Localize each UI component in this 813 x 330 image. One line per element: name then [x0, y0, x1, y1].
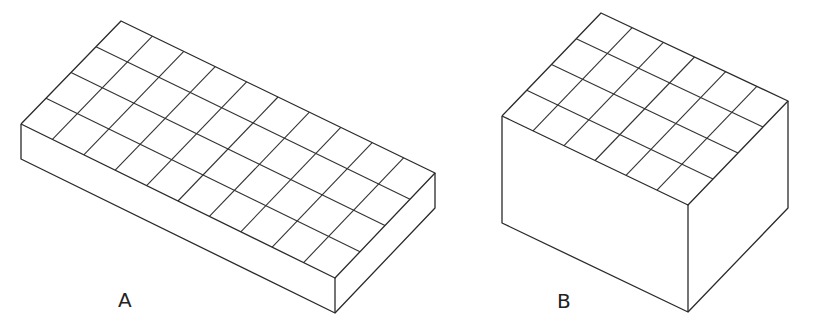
- diagram-canvas: [0, 0, 813, 330]
- box-a-label: A: [118, 290, 132, 310]
- box-b-label: B: [557, 291, 571, 311]
- box-a: [21, 21, 435, 313]
- box-b: [502, 13, 788, 312]
